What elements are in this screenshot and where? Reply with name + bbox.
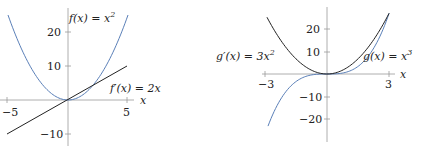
curve-g xyxy=(268,13,389,126)
label-g: g(x) = x3 xyxy=(363,48,412,63)
label-g-prime: g′(x) = 3x2 xyxy=(216,48,275,63)
curve-g-prime xyxy=(267,13,389,74)
right-ytick-label-m20: −20 xyxy=(299,113,322,126)
right-x-label: x xyxy=(400,68,407,81)
left-ytick-label-10: 10 xyxy=(47,60,61,73)
figure: −5 5 x 20 10 −10 f(x) = x2 f′(x) = 2x −3… xyxy=(0,0,434,149)
left-ytick-label-20: 20 xyxy=(47,26,61,39)
right-xtick-label-m3: −3 xyxy=(258,78,274,91)
left-x-label: x xyxy=(140,94,147,107)
right-chart: −3 3 x 20 10 −10 −20 g′(x) = 3x2 g(x) = … xyxy=(216,7,412,142)
right-ytick-label-m10: −10 xyxy=(299,91,322,104)
label-f: f(x) = x2 xyxy=(68,10,115,25)
left-ytick-label-m10: −10 xyxy=(40,128,63,141)
left-xtick-label-5: 5 xyxy=(123,106,130,119)
right-ytick-label-10: 10 xyxy=(306,46,320,59)
right-ytick-label-20: 20 xyxy=(306,23,320,36)
label-f-prime: f′(x) = 2x xyxy=(109,82,162,95)
left-xtick-label-m5: −5 xyxy=(2,106,18,119)
right-xtick-label-3: 3 xyxy=(385,78,392,91)
left-chart: −5 5 x 20 10 −10 f(x) = x2 f′(x) = 2x xyxy=(0,8,162,146)
